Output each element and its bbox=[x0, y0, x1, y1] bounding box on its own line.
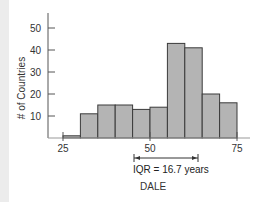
iqr-arrow bbox=[134, 154, 198, 162]
histogram-chart: 10 20 30 40 50 25 50 75 # of Countries I… bbox=[0, 0, 261, 202]
histogram-bar bbox=[80, 114, 97, 138]
y-ticks bbox=[48, 28, 55, 116]
y-tick-label-50: 50 bbox=[30, 23, 42, 34]
y-tick-label-20: 20 bbox=[30, 89, 42, 100]
histogram-bar bbox=[115, 105, 132, 138]
y-tick-label-10: 10 bbox=[30, 111, 42, 122]
histogram-bar bbox=[167, 43, 184, 138]
y-tick-label-30: 30 bbox=[30, 67, 42, 78]
x-axis-title: DALE bbox=[140, 181, 166, 192]
histogram-bar bbox=[133, 109, 150, 138]
histogram-bar bbox=[220, 103, 237, 138]
y-axis-title: # of Countries bbox=[16, 57, 27, 119]
x-tick-label-50: 50 bbox=[144, 143, 156, 154]
histogram-bar bbox=[150, 107, 167, 138]
x-tick-label-75: 75 bbox=[231, 143, 243, 154]
bars-group bbox=[63, 43, 237, 138]
histogram-bar bbox=[202, 94, 219, 138]
histogram-bar bbox=[185, 48, 202, 138]
x-tick-label-25: 25 bbox=[57, 143, 69, 154]
iqr-label: IQR = 16.7 years bbox=[133, 164, 209, 175]
histogram-bar bbox=[98, 105, 115, 138]
y-tick-label-40: 40 bbox=[30, 45, 42, 56]
